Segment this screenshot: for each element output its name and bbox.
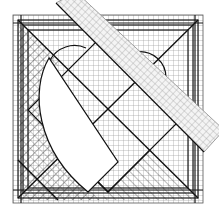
quilt-diagram: Heart quilt block with grid and diagonal…: [0, 0, 219, 213]
